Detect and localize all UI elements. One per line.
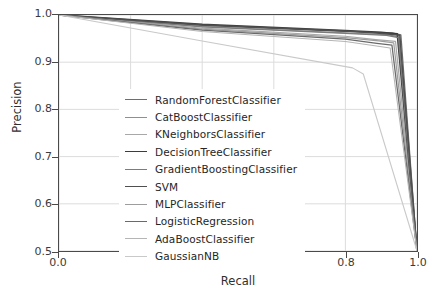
- legend-item-label: DecisionTreeClassifier: [155, 146, 272, 158]
- legend-line-swatch: [125, 238, 147, 239]
- legend-item: RandomForestClassifier: [119, 91, 305, 108]
- x-tick-mark: [346, 252, 347, 258]
- legend-item-label: AdaBoostClassifier: [155, 233, 254, 245]
- y-tick-label: 0.6: [22, 197, 52, 210]
- legend-item: GradientBoostingClassifier: [119, 161, 305, 178]
- y-tick-label: 1.0: [22, 7, 52, 20]
- y-tick-label: 0.7: [22, 150, 52, 163]
- legend-line-swatch: [125, 134, 147, 135]
- legend-item: CatBoostClassifier: [119, 108, 305, 125]
- legend-item-label: GaussianNB: [155, 250, 219, 262]
- x-tick-mark: [58, 252, 59, 258]
- legend-item: MLPClassifier: [119, 195, 305, 212]
- legend-item-label: LogisticRegression: [155, 215, 254, 227]
- legend-item: AdaBoostClassifier: [119, 230, 305, 247]
- legend: RandomForestClassifierCatBoostClassifier…: [119, 89, 305, 267]
- legend-item-label: RandomForestClassifier: [155, 94, 281, 106]
- legend-line-swatch: [125, 99, 147, 100]
- y-axis-title: Precision: [10, 57, 24, 157]
- precision-recall-figure: 0.50.60.70.80.91.0 0.00.20.40.60.81.0 Ra…: [0, 0, 439, 296]
- legend-item: DecisionTreeClassifier: [119, 143, 305, 160]
- legend-item: GaussianNB: [119, 248, 305, 265]
- legend-item-label: MLPClassifier: [155, 198, 225, 210]
- y-tick-label: 0.9: [22, 55, 52, 68]
- legend-line-swatch: [125, 186, 147, 187]
- legend-line-swatch: [125, 169, 147, 170]
- plot-area: RandomForestClassifierCatBoostClassifier…: [58, 14, 418, 252]
- x-tick-mark: [418, 252, 419, 258]
- legend-line-swatch: [125, 204, 147, 205]
- legend-item-label: CatBoostClassifier: [155, 111, 252, 123]
- legend-line-swatch: [125, 256, 147, 257]
- legend-item-label: KNeighborsClassifier: [155, 128, 265, 140]
- legend-line-swatch: [125, 221, 147, 222]
- legend-item: LogisticRegression: [119, 213, 305, 230]
- legend-line-swatch: [125, 151, 147, 152]
- y-tick-label: 0.8: [22, 102, 52, 115]
- legend-item: SVM: [119, 178, 305, 195]
- x-axis-title: Recall: [58, 274, 418, 288]
- legend-item-label: GradientBoostingClassifier: [155, 163, 297, 175]
- legend-item-label: SVM: [155, 181, 178, 193]
- legend-item: KNeighborsClassifier: [119, 126, 305, 143]
- legend-line-swatch: [125, 117, 147, 118]
